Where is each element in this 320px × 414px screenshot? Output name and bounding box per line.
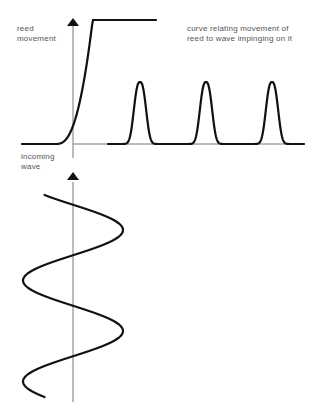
bottom-axis-arrow-icon bbox=[67, 172, 79, 180]
diagram-canvas bbox=[0, 0, 320, 414]
top-axis-arrow-icon bbox=[67, 18, 79, 26]
output-pulse-train bbox=[108, 82, 304, 144]
reed-response-curve bbox=[22, 20, 156, 144]
